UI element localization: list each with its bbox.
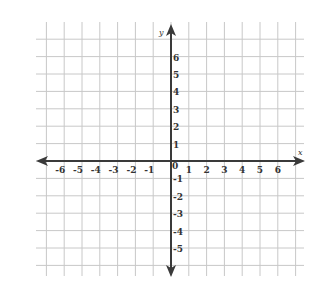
- origin-label: 0: [172, 161, 178, 171]
- axes: [36, 24, 305, 277]
- x-tick-label: -4: [91, 165, 101, 175]
- coordinate-plane: -6-5-4-3-2-1123456 -5-4-3-2-1123456 0 x …: [0, 0, 312, 288]
- y-tick-label: 3: [173, 105, 179, 115]
- y-tick-label: -4: [173, 227, 183, 237]
- x-tick-label: 3: [221, 165, 227, 175]
- x-tick-label: -5: [73, 165, 83, 175]
- x-tick-label: -6: [55, 165, 65, 175]
- y-tick-label: 4: [173, 87, 179, 97]
- x-tick-label: 6: [275, 165, 281, 175]
- y-tick-label: -2: [173, 192, 183, 202]
- y-tick-label: 2: [173, 122, 179, 132]
- x-tick-label: 5: [257, 165, 263, 175]
- x-tick-label: -1: [144, 165, 154, 175]
- x-tick-label: -3: [109, 165, 119, 175]
- x-tick-labels: -6-5-4-3-2-1123456: [55, 165, 281, 175]
- x-tick-label: 2: [203, 165, 209, 175]
- y-tick-label: 1: [173, 140, 179, 150]
- y-tick-label: 6: [173, 53, 179, 63]
- x-tick-label: 1: [186, 165, 192, 175]
- y-tick-label: -3: [173, 209, 183, 219]
- x-tick-label: -2: [126, 165, 136, 175]
- y-tick-label: 5: [173, 70, 179, 80]
- y-tick-label: -5: [173, 244, 183, 254]
- y-tick-labels: -5-4-3-2-1123456: [173, 53, 183, 254]
- y-tick-label: -1: [173, 174, 183, 184]
- x-tick-label: 4: [239, 165, 245, 175]
- y-axis-label: y: [158, 28, 164, 37]
- x-axis-label: x: [298, 148, 303, 157]
